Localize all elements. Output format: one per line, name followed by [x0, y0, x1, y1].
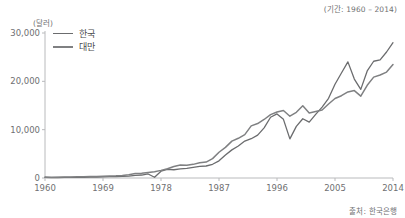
- x-tick-2005: 2005: [324, 183, 346, 193]
- legend-item-taiwan: 대만: [53, 40, 95, 53]
- source-annotation: 출처: 한국은행: [349, 205, 397, 216]
- y-tick-30000: 30,000: [10, 28, 40, 38]
- x-tick-2014: 2014: [382, 183, 404, 193]
- period-annotation: (기간: 1960 – 2014): [324, 3, 397, 14]
- x-tick-1996: 1996: [266, 183, 288, 193]
- y-tick-0: 0: [35, 173, 40, 183]
- legend-label-taiwan: 대만: [79, 40, 95, 53]
- legend-item-korea: 한국: [53, 27, 95, 40]
- legend-swatch-korea: [53, 33, 73, 34]
- y-tick-20000: 20,000: [10, 76, 40, 86]
- y-tick-10000: 10,000: [10, 125, 40, 135]
- x-tick-1969: 1969: [92, 183, 114, 193]
- x-tick-1987: 1987: [208, 183, 230, 193]
- y-axis-unit-label: (달러): [33, 17, 53, 28]
- legend-swatch-taiwan: [53, 46, 73, 48]
- data-series-lines: [45, 43, 393, 178]
- x-tick-1960: 1960: [34, 183, 56, 193]
- legend-label-korea: 한국: [79, 27, 95, 40]
- chart-legend: 한국 대만: [53, 27, 95, 53]
- series-line-korea: [45, 43, 393, 178]
- axis-lines: [42, 31, 393, 181]
- x-tick-1978: 1978: [150, 183, 172, 193]
- chart-figure: (기간: 1960 – 2014) 출처: 한국은행 (달러) 한국 대만 01…: [0, 0, 405, 218]
